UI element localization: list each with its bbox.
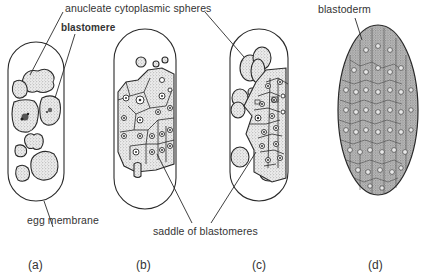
panel-label-d: (d)	[368, 258, 383, 272]
label-saddle-of-blastomeres: saddle of blastomeres	[153, 225, 258, 237]
panel-b-embryo	[114, 29, 176, 209]
panel-c-embryo	[230, 29, 288, 201]
panel-a-embryo	[8, 42, 64, 201]
panel-label-a: (a)	[28, 258, 43, 272]
panel-label-c: (c)	[252, 258, 266, 272]
panel-d-embryo	[338, 25, 418, 195]
label-egg-membrane: egg membrane	[27, 214, 99, 226]
label-blastomere: blastomere	[61, 22, 115, 33]
label-anucleate-cytoplasmic-spheres: anucleate cytoplasmic spheres	[65, 2, 211, 14]
label-blastoderm: blastoderm	[318, 3, 371, 15]
panel-label-b: (b)	[136, 258, 151, 272]
leader-lines	[30, 12, 362, 227]
